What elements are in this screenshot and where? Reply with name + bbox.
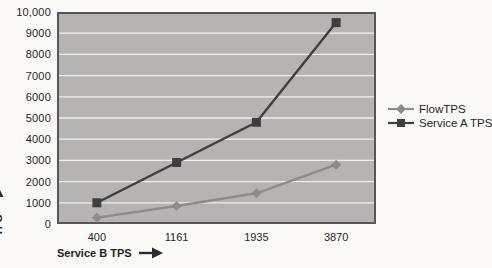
data-point-marker [92,198,101,207]
x-axis-arrow-icon [139,247,163,259]
legend-label: FlowTPS [419,103,466,115]
y-tick-label: 8000 [0,47,51,61]
legend-label: Service A TPS [419,117,492,129]
y-tick-label: 3000 [0,153,51,167]
y-tick-label: 4000 [0,132,51,146]
y-axis-title: TPS [0,186,6,236]
y-tick-label: 2000 [0,175,51,189]
y-tick-label: 0 [0,217,51,231]
legend-item: FlowTPS [388,103,492,115]
y-tick-label: 10,000 [0,5,51,19]
x-axis-tick-labels: 400116119353870 [57,230,376,244]
data-point-marker [172,158,181,167]
x-tick-label: 1935 [224,230,288,244]
y-axis-title-label: TPS [0,215,4,236]
data-point-marker [252,118,261,127]
y-tick-label: 9000 [0,26,51,40]
y-tick-label: 6000 [0,90,51,104]
legend-marker-square-icon [388,117,414,129]
y-axis-tick-labels: 010002000300040005000600070008000900010,… [0,12,51,224]
legend-marker-diamond-icon [388,103,414,115]
y-tick-label: 5000 [0,111,51,125]
x-tick-label: 3870 [304,230,368,244]
y-axis-arrow-icon [0,186,4,210]
legend-item: Service A TPS [388,117,492,129]
x-tick-label: 400 [65,230,129,244]
data-point-marker [332,18,341,27]
chart-plot-area [57,12,376,224]
x-tick-label: 1161 [145,230,209,244]
x-axis-title: Service B TPS [57,247,163,259]
y-tick-label: 7000 [0,69,51,83]
chart-legend: FlowTPSService A TPS [388,103,492,129]
y-tick-label: 1000 [0,196,51,210]
x-axis-title-label: Service B TPS [57,247,132,259]
